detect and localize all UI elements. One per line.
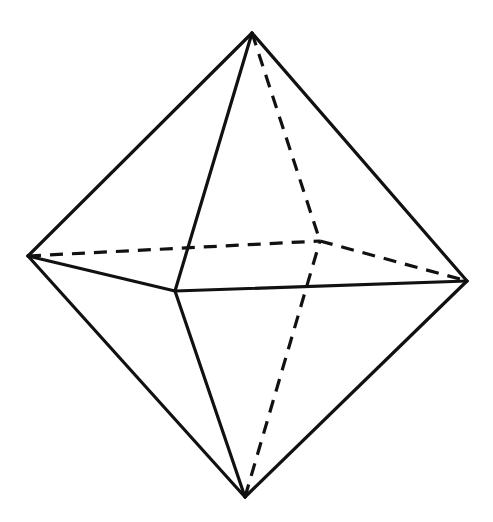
- hidden-edge-left-back: [28, 241, 320, 256]
- hidden-edge-back-right: [320, 241, 467, 281]
- hidden-edge-top-back: [252, 33, 320, 241]
- visible-edge-bottom-left: [28, 256, 245, 497]
- octahedron-edges: [28, 33, 467, 497]
- visible-edge-left-front: [28, 256, 175, 291]
- visible-edge-front-right: [175, 281, 467, 291]
- visible-edge-top-right: [252, 33, 467, 281]
- octahedron-diagram: [0, 0, 493, 522]
- visible-edge-bottom-front: [175, 291, 245, 497]
